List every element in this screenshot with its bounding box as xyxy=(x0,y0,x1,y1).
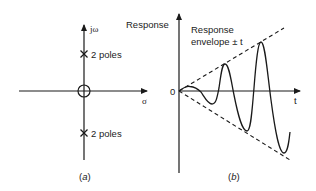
origin-label: 0 xyxy=(170,86,175,97)
time-response-plot: Response t 0 Response envelope ± t (b) xyxy=(126,14,300,182)
caption-b: (b) xyxy=(228,171,240,182)
figure: jω σ 2 poles 2 poles (a) Response t 0 Re… xyxy=(0,0,316,191)
caption-a: (a) xyxy=(79,171,91,182)
pole-zero-plot: jω σ 2 poles 2 poles (a) xyxy=(19,24,147,182)
imaginary-axis-label: jω xyxy=(89,24,99,34)
upper-pole-label: 2 poles xyxy=(91,49,122,60)
envelope-label-line1: Response xyxy=(191,24,234,35)
response-axis-label: Response xyxy=(126,19,169,30)
envelope-label-line2: envelope ± t xyxy=(191,36,243,47)
time-axis-label: t xyxy=(294,95,297,106)
real-axis-label: σ xyxy=(142,96,147,106)
lower-pole-label: 2 poles xyxy=(91,128,122,139)
response-curve xyxy=(179,42,290,153)
lower-envelope-line xyxy=(179,91,290,160)
